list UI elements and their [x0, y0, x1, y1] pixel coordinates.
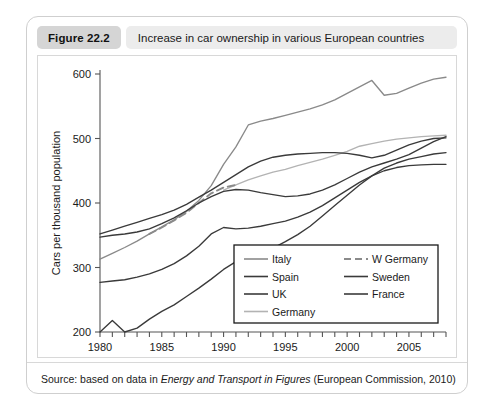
source-italic-title: Energy and Transport in Figures [161, 373, 311, 385]
line-chart: 200300400500600198019851990199520002005C… [38, 56, 456, 357]
legend-label-uk: UK [272, 288, 287, 300]
y-axis-tick-label: 400 [73, 197, 91, 209]
x-axis-tick-label: 1985 [150, 341, 174, 353]
source-suffix: (European Commission, 2010) [310, 373, 455, 385]
x-axis-tick-label: 1980 [88, 341, 112, 353]
legend-label-germany: Germany [272, 306, 316, 318]
y-axis-title: Cars per thousand population [50, 131, 62, 275]
legend-label-france: France [372, 288, 405, 300]
y-axis-tick-label: 500 [73, 133, 91, 145]
chart-plot-area: 200300400500600198019851990199520002005C… [37, 55, 457, 358]
source-caption: Source: based on data in Energy and Tran… [27, 362, 467, 394]
figure-card: Figure 22.2 Increase in car ownership in… [26, 16, 468, 394]
figure-number-badge: Figure 22.2 [37, 26, 121, 49]
figure-title: Increase in car ownership in various Eur… [126, 26, 457, 49]
series-line-france [100, 138, 446, 234]
y-axis-tick-label: 200 [73, 326, 91, 338]
x-axis-tick-label: 2005 [397, 341, 421, 353]
legend-label-sweden: Sweden [372, 271, 410, 283]
legend-label-spain: Spain [272, 271, 299, 283]
source-prefix: Source: based on data in [41, 373, 161, 385]
legend-label-italy: Italy [272, 253, 292, 265]
x-axis-tick-label: 1995 [273, 341, 297, 353]
x-axis-tick-label: 1990 [211, 341, 235, 353]
figure-header: Figure 22.2 Increase in car ownership in… [37, 26, 457, 49]
legend-label-w-germany: W Germany [372, 253, 429, 265]
x-axis-tick-label: 2000 [335, 341, 359, 353]
y-axis-tick-label: 300 [73, 262, 91, 274]
y-axis-tick-label: 600 [73, 68, 91, 80]
